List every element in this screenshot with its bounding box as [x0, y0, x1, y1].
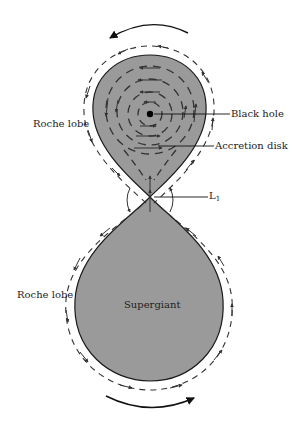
l1-left-curl	[127, 188, 130, 212]
black-hole-label: Black hole	[231, 109, 284, 119]
diagram-stage: Roche lobe Black hole Accretion disk L1 …	[0, 0, 293, 430]
accretion-disk-label: Accretion disk	[215, 141, 288, 151]
l1-right-curl	[170, 188, 173, 212]
top-rotation-arrow	[110, 25, 188, 38]
supergiant-label: Supergiant	[124, 300, 180, 310]
roche-lobe-label-bottom: Roche lobe	[17, 290, 73, 300]
roche-lobe-diagram	[0, 0, 293, 430]
l1-label-main: L	[209, 190, 216, 201]
supergiant-roche-lobe	[75, 197, 223, 381]
l1-label-subscript: 1	[216, 195, 220, 203]
l1-label: L1	[209, 191, 220, 203]
black-hole-dot	[147, 111, 153, 117]
bottom-rotation-arrow	[106, 396, 194, 408]
roche-lobe-label-top: Roche lobe	[33, 119, 89, 129]
